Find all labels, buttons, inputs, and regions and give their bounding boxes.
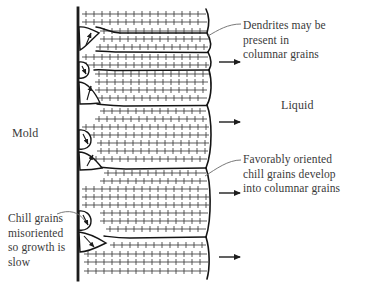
dendrite-row bbox=[82, 19, 207, 25]
dendrite-row bbox=[95, 71, 209, 77]
leader-lines bbox=[57, 24, 241, 221]
dendrite-row bbox=[82, 186, 208, 192]
dendrite-row bbox=[97, 140, 209, 146]
dendrite-row bbox=[98, 95, 207, 101]
dendrites-leader bbox=[208, 24, 241, 36]
dendrite-row bbox=[82, 202, 209, 208]
dendrite-row bbox=[82, 124, 209, 130]
favorably-leader bbox=[205, 160, 241, 176]
dendrite-row bbox=[110, 242, 206, 248]
mold-label: Mold bbox=[12, 126, 38, 141]
chill-grains-caption: Chill grains misoriented so growth is sl… bbox=[8, 211, 65, 269]
chill-grain bbox=[79, 130, 91, 149]
dendrite-row bbox=[106, 226, 206, 232]
dendrite-row bbox=[95, 87, 207, 93]
favorably-oriented-caption: Favorably oriented chill grains develop … bbox=[243, 152, 340, 196]
dendrite-row bbox=[84, 268, 207, 274]
dendrite-row bbox=[95, 116, 207, 122]
dendrite-row bbox=[100, 218, 207, 224]
dendrites-caption: Dendrites may be present in columnar gra… bbox=[243, 18, 326, 62]
dendrite-row bbox=[96, 44, 208, 50]
dendrite-row bbox=[100, 178, 207, 184]
dendrite-row bbox=[100, 210, 208, 216]
dendrite-row bbox=[84, 251, 207, 257]
chill-grain bbox=[79, 27, 99, 50]
dendrite-row bbox=[92, 156, 207, 162]
liquid-label: Liquid bbox=[281, 98, 314, 113]
chill-grain bbox=[79, 232, 106, 252]
dendrite-row bbox=[97, 148, 208, 154]
dendrite-row bbox=[104, 170, 206, 176]
dendrite-row bbox=[82, 11, 206, 17]
dendrite-row bbox=[84, 259, 208, 265]
growth-arrows bbox=[219, 62, 240, 257]
dendrite-row bbox=[82, 194, 209, 200]
dendrite-row bbox=[95, 79, 208, 85]
solidification-front bbox=[206, 9, 211, 279]
dendrite-row bbox=[82, 54, 208, 60]
grain-boundaries bbox=[94, 27, 209, 238]
chill-grain bbox=[79, 82, 100, 104]
dendrite-row bbox=[100, 108, 206, 114]
chill-grain bbox=[79, 62, 89, 78]
dendrite-row bbox=[82, 62, 209, 68]
casting-solidification-diagram: Dendrites may be present in columnar gra… bbox=[0, 0, 365, 286]
dendrite-row bbox=[82, 132, 209, 138]
chill-grain bbox=[79, 152, 102, 170]
dendrite-row bbox=[100, 36, 209, 42]
